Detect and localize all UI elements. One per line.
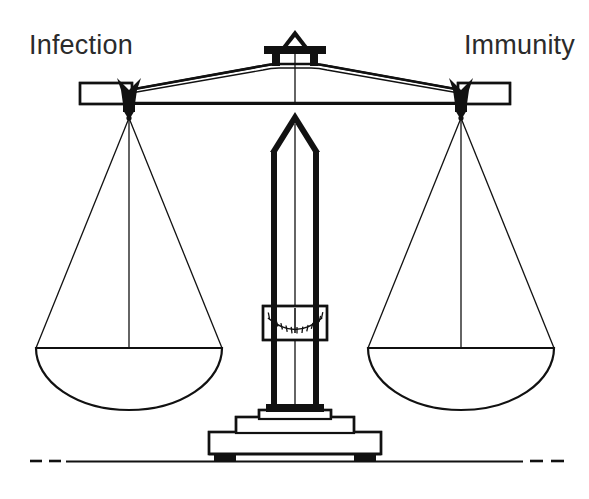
pedestal-base	[209, 410, 381, 462]
balance-scale-drawing	[0, 0, 589, 499]
right-pan	[368, 118, 554, 410]
gauge-dial	[263, 306, 327, 340]
center-column	[266, 112, 324, 412]
left-pan	[36, 118, 222, 410]
ground-line	[30, 461, 564, 462]
balance-scale-figure: Infection Immunity	[0, 0, 589, 499]
